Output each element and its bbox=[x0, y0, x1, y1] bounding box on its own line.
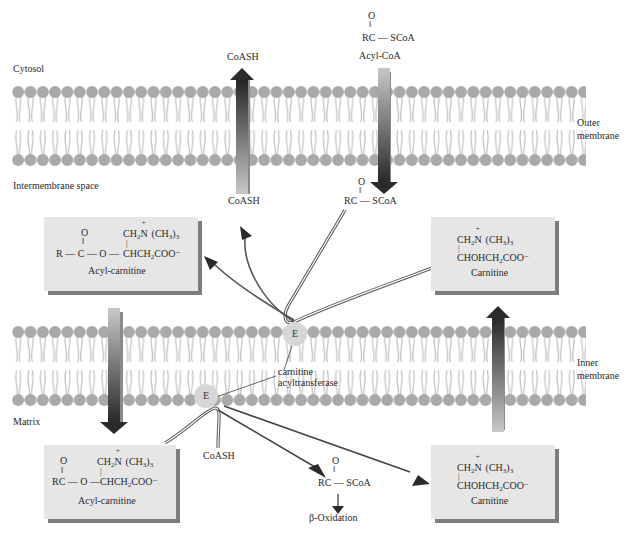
coash-matrix-label: CoASH bbox=[203, 450, 235, 462]
enzyme-outer-face: E bbox=[283, 322, 307, 346]
cytosol-label: Cytosol bbox=[13, 63, 44, 75]
carnitine-name: Carnitine bbox=[471, 267, 508, 278]
double-bond-symbol: ‖ bbox=[333, 464, 335, 476]
acyl-ester-right: CHCH2COO⁻ bbox=[100, 476, 158, 487]
acyl-coa-name: Acyl-CoA bbox=[359, 50, 401, 62]
beta-oxidation-label: β-Oxidation bbox=[309, 512, 357, 524]
carnitine-name: Carnitine bbox=[471, 495, 508, 506]
acyl-coa-formula: RC — SCoA bbox=[362, 32, 415, 44]
outer-membrane-label-line1: Outer bbox=[577, 117, 600, 129]
inner-membrane-label-line2: membrane bbox=[577, 370, 619, 382]
double-bond-symbol: ‖ bbox=[369, 19, 371, 31]
carnitine-box-matrix: CH2N+(CH3)3 | CHOHCH2COO⁻ Carnitine bbox=[431, 445, 555, 519]
matrix-exchange-lines bbox=[165, 406, 430, 486]
carnitine-backbone: CHOHCH2COO⁻ bbox=[457, 252, 529, 263]
carnitine-backbone: CHOHCH2COO⁻ bbox=[457, 480, 529, 491]
acyl-coa-intermembrane-formula: RC — SCoA bbox=[344, 195, 397, 207]
acyl-ester-left: RC — O — bbox=[52, 476, 100, 487]
acyl-carnitine-box-matrix: O ‖ CH2N+(CH3)3 | RC — O — CHCH2COO⁻ Acy… bbox=[44, 445, 176, 519]
outer-membrane bbox=[12, 86, 586, 166]
intermembrane-space-label: Intermembrane space bbox=[13, 180, 99, 192]
matrix-acyl-coa-formula: RC — SCoA bbox=[318, 477, 371, 489]
double-bond-symbol: ‖ bbox=[82, 236, 84, 247]
carnitine-box-intermembrane: CH2N+(CH3)3 | CHOHCH2COO⁻ Carnitine bbox=[431, 217, 555, 291]
inner-membrane-label-line1: Inner bbox=[577, 357, 598, 369]
acyl-carnitine-box-intermembrane: O ‖ CH2N+(CH3)3 | R — C — O — CHCH2COO⁻ … bbox=[44, 217, 198, 291]
acyl-ester-right: CHCH2COO⁻ bbox=[123, 248, 181, 259]
carnitine-shuttle-diagram: Cytosol Intermembrane space Matrix Outer… bbox=[0, 0, 642, 544]
acyl-carnitine-name: Acyl-carnitine bbox=[88, 265, 146, 276]
trimethylammonium-group: CH2N+(CH3)3 bbox=[457, 462, 513, 473]
enzyme-name-line2: acyltransferase bbox=[278, 377, 338, 389]
enzyme-inner-face: E bbox=[194, 384, 218, 408]
outer-membrane-label-line2: membrane bbox=[577, 130, 619, 142]
trimethylammonium-group: CH2N+(CH3)3 bbox=[97, 456, 153, 467]
trimethylammonium-group: CH2N+(CH3)3 bbox=[457, 234, 513, 245]
matrix-label: Matrix bbox=[13, 416, 40, 428]
acyl-ester-left: R — C — O — bbox=[56, 248, 119, 259]
acyl-carnitine-name: Acyl-carnitine bbox=[78, 495, 136, 506]
trimethylammonium-group: CH2N+(CH3)3 bbox=[123, 228, 179, 239]
beta-oxidation-arrow bbox=[332, 494, 344, 514]
coash-cytosol-label: CoASH bbox=[227, 51, 259, 63]
coash-intermembrane-label: CoASH bbox=[228, 195, 260, 207]
double-bond-symbol: ‖ bbox=[61, 465, 63, 476]
